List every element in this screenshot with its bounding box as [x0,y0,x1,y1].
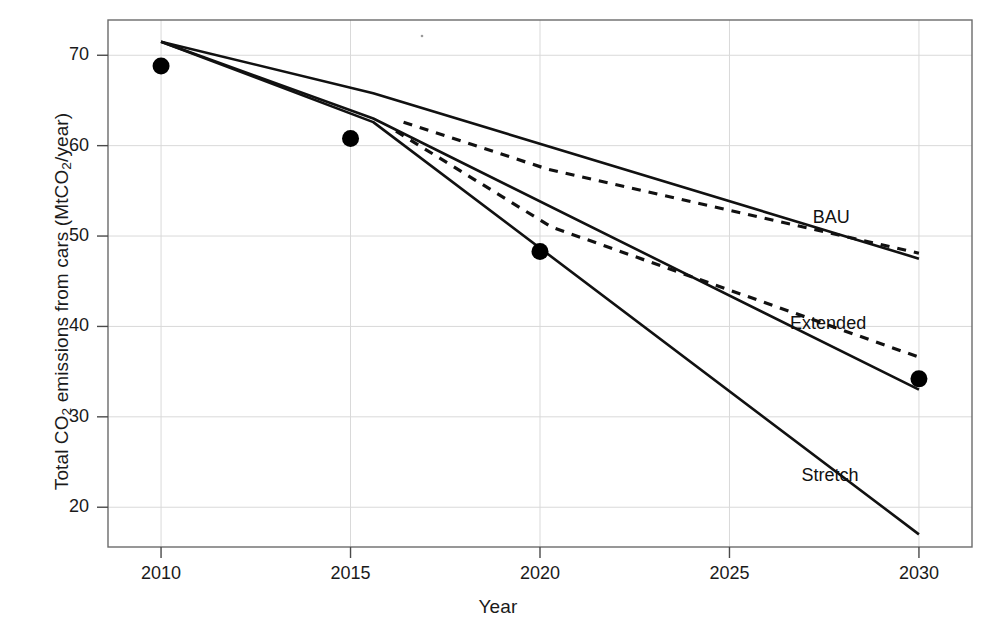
series-line-bau-dashed [404,122,919,253]
y-tick-label: 30 [29,406,89,427]
y-tick-label: 50 [29,225,89,246]
y-axis-title-mid: emissions from cars (MtCO [51,170,72,408]
y-tick-label: 60 [29,135,89,156]
x-axis-title: Year [0,596,996,618]
series-label-extended: Extended [790,313,866,334]
y-tick-label: 70 [29,44,89,65]
stray-speck [421,35,424,38]
x-tick-label: 2020 [495,563,585,584]
x-tick-label: 2025 [684,563,774,584]
y-tick-label: 20 [29,496,89,517]
data-point-marker [342,130,359,147]
dust-speck [421,35,424,38]
data-point-marker [532,243,549,260]
chart-figure: Total CO2 emissions from cars (MtCO2/yea… [0,0,996,640]
x-tick-label: 2015 [306,563,396,584]
series-label-stretch: Stretch [801,465,858,486]
data-point-marker [153,58,170,75]
x-tick-label: 2010 [116,563,206,584]
y-tick-label: 40 [29,315,89,336]
series-label-bau: BAU [813,207,850,228]
data-point-marker [910,370,927,387]
x-tick-label: 2030 [874,563,964,584]
axis-ticks [97,55,919,558]
y-axis-title-sub2: 2 [59,162,74,170]
